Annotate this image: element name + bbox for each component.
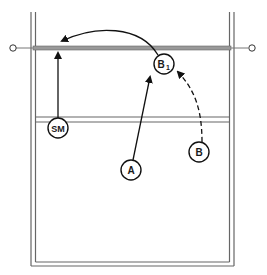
svg-text:A: A [127, 165, 134, 176]
net [10, 45, 255, 51]
net-post-left-icon [10, 45, 16, 51]
svg-text:SM: SM [51, 124, 65, 134]
net-post-right-icon [249, 45, 255, 51]
svg-text:1: 1 [166, 64, 170, 71]
player-a: A [121, 160, 141, 180]
arrow-a-to-b1 [133, 77, 150, 160]
svg-text:B: B [157, 59, 164, 70]
svg-text:B: B [195, 147, 202, 158]
player-sm: SM [48, 118, 68, 138]
player-b1: B 1 [154, 54, 174, 74]
arrow-b1-to-left [62, 30, 158, 55]
arrow-b-to-b1 [178, 72, 202, 142]
court-diagram: SM B 1 A B [0, 0, 267, 275]
player-b: B [189, 142, 209, 162]
